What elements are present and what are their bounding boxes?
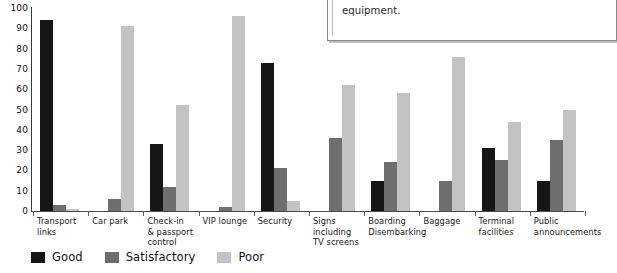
bar-poor <box>452 57 465 211</box>
chart-legend: GoodSatisfactoryPoor <box>31 250 286 264</box>
legend-swatch-icon <box>217 252 231 263</box>
bar-poor <box>397 93 410 211</box>
bar-poor <box>287 201 300 211</box>
bar-group <box>253 8 308 211</box>
x-axis-category-label: Baggage <box>423 216 460 227</box>
bar-satisfactory <box>384 162 397 211</box>
bar-poor <box>232 16 245 211</box>
legend-swatch-icon <box>31 252 45 263</box>
x-axis-tick <box>143 211 144 216</box>
x-axis-category-label: Public announcements <box>534 216 602 237</box>
x-axis-category-label: Security <box>258 216 292 227</box>
legend-swatch-icon <box>105 252 119 263</box>
bar-good <box>482 148 495 211</box>
bar-satisfactory <box>53 205 66 211</box>
bar-satisfactory <box>108 199 121 211</box>
y-axis-tick-20: 20 <box>2 166 28 175</box>
bar-good <box>150 144 163 211</box>
x-axis-tick <box>88 211 89 216</box>
x-axis-category-label: Transport links <box>37 216 76 237</box>
bar-satisfactory <box>550 140 563 211</box>
bar-satisfactory <box>329 138 342 211</box>
bar-satisfactory <box>274 168 287 211</box>
y-axis-tick-labels: 1009080706050403020100 <box>0 0 28 215</box>
x-axis-category-label: Boarding Disembarking <box>368 216 426 237</box>
legend-item-poor[interactable]: Poor <box>217 250 264 264</box>
legend-label: Good <box>52 250 83 264</box>
x-axis-tick <box>530 211 531 216</box>
bar-good <box>371 181 384 211</box>
x-axis-tick <box>364 211 365 216</box>
legend-label: Satisfactory <box>126 250 196 264</box>
bar-group-bars <box>261 8 300 211</box>
bar-poor <box>342 85 355 211</box>
y-axis-tick-10: 10 <box>2 186 28 195</box>
bar-good <box>40 20 53 211</box>
annotation-note-inner: improving communications than investing … <box>332 0 614 36</box>
bar-group-bars <box>206 8 245 211</box>
x-axis-tick <box>419 211 420 216</box>
bar-satisfactory <box>163 187 176 211</box>
x-axis-tick <box>585 211 586 216</box>
bar-group <box>142 8 197 211</box>
y-axis-tick-0: 0 <box>2 207 28 216</box>
annotation-note-text: improving communications than investing … <box>342 0 614 18</box>
y-axis-tick-60: 60 <box>2 85 28 94</box>
legend-label: Poor <box>238 250 264 264</box>
x-axis-category-label: Check-in & passport control <box>147 216 193 248</box>
y-axis-tick-90: 90 <box>2 24 28 33</box>
bar-poor <box>121 26 134 211</box>
x-axis-tick <box>309 211 310 216</box>
x-axis-category-label: Signs including TV screens <box>313 216 359 248</box>
x-axis-category-label: VIP lounge <box>203 216 248 227</box>
x-axis-category-label: Terminal facilities <box>479 216 514 237</box>
x-axis-tick <box>475 211 476 216</box>
legend-item-satisfactory[interactable]: Satisfactory <box>105 250 196 264</box>
bar-group-bars <box>40 8 79 211</box>
bar-good <box>261 63 274 211</box>
bar-poor <box>66 209 79 211</box>
bar-group <box>32 8 87 211</box>
annotation-note-box: improving communications than investing … <box>327 0 617 41</box>
bar-poor <box>508 122 521 211</box>
bar-group-bars <box>95 8 134 211</box>
x-axis-tick <box>33 211 34 216</box>
bar-poor <box>563 110 576 212</box>
x-axis-category-label: Car park <box>92 216 128 227</box>
bar-satisfactory <box>495 160 508 211</box>
bar-poor <box>176 105 189 211</box>
bar-satisfactory <box>219 207 232 211</box>
legend-item-good[interactable]: Good <box>31 250 83 264</box>
x-axis-tick <box>199 211 200 216</box>
bar-group <box>198 8 253 211</box>
bar-satisfactory <box>439 181 452 211</box>
y-axis-tick-80: 80 <box>2 44 28 53</box>
y-axis-tick-100: 100 <box>2 4 28 13</box>
y-axis-tick-50: 50 <box>2 105 28 114</box>
bar-good <box>537 181 550 211</box>
y-axis-tick-30: 30 <box>2 146 28 155</box>
bar-group <box>87 8 142 211</box>
x-axis-line <box>31 211 584 212</box>
bar-group-bars <box>150 8 189 211</box>
x-axis-tick <box>254 211 255 216</box>
y-axis-tick-70: 70 <box>2 64 28 73</box>
y-axis-tick-40: 40 <box>2 125 28 134</box>
